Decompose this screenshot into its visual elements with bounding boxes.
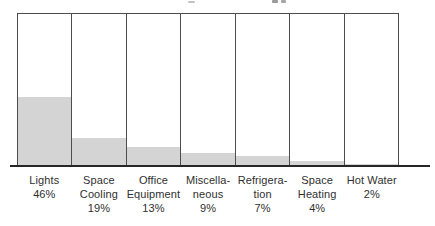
cropped-title-fragment (272, 0, 278, 3)
bar-column (345, 14, 398, 167)
category-percent: 9% (181, 201, 236, 215)
category-name-line: Space (72, 173, 127, 187)
bar-column (181, 14, 235, 167)
category-name-line: tion (235, 187, 290, 201)
category-name-line: Miscella- (181, 173, 236, 187)
category-label: Miscella-neous9% (181, 173, 236, 215)
bar-column (18, 14, 72, 167)
category-percent: 7% (235, 201, 290, 215)
category-labels-row: Lights46%SpaceCooling19%OfficeEquipment1… (17, 173, 399, 215)
category-name-line: Cooling (72, 187, 127, 201)
category-name-line: Hot Water (344, 173, 399, 187)
category-label: SpaceCooling19% (72, 173, 127, 215)
category-label: Lights46% (17, 173, 72, 215)
category-label: Refrigera-tion7% (235, 173, 290, 215)
category-name-line: Lights (17, 173, 72, 187)
category-percent: 4% (290, 201, 345, 215)
category-percent: 46% (17, 187, 72, 201)
bar-column (236, 14, 290, 167)
bar-column (290, 14, 344, 167)
category-name-line: Refrigera- (235, 173, 290, 187)
bar-column (127, 14, 181, 167)
category-name-line: Heating (290, 187, 345, 201)
category-name-line: Space (290, 173, 345, 187)
category-name-line: neous (181, 187, 236, 201)
bar-column (72, 14, 126, 167)
plot-area (17, 13, 399, 167)
category-name-line: Office (126, 173, 181, 187)
category-label: SpaceHeating4% (290, 173, 345, 215)
category-percent: 19% (72, 201, 127, 215)
category-percent: 13% (126, 201, 181, 215)
bar-fill (72, 138, 125, 167)
category-name-line: Equipment (126, 187, 181, 201)
category-label: Hot Water2% (344, 173, 399, 215)
bar-fill (18, 97, 71, 167)
category-percent: 2% (344, 187, 399, 201)
category-label: OfficeEquipment13% (126, 173, 181, 215)
x-axis-line (10, 165, 430, 167)
cropped-title-fragment (188, 1, 195, 3)
cropped-title-fragment (281, 0, 286, 3)
energy-use-bar-chart: Lights46%SpaceCooling19%OfficeEquipment1… (0, 0, 435, 226)
